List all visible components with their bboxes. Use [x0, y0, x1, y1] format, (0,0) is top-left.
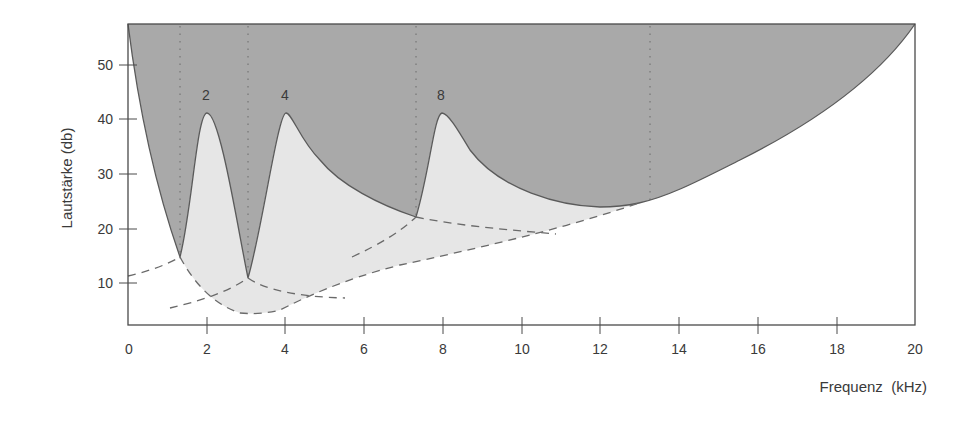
x-tick-label: 6 — [360, 341, 368, 357]
y-tick-label: 20 — [97, 221, 113, 237]
x-tick-label: 20 — [907, 341, 923, 357]
x-tick-label: 12 — [592, 341, 608, 357]
masker-2k-lower-skirt — [128, 257, 180, 276]
x-tick-label: 16 — [750, 341, 766, 357]
x-tick-label: 2 — [203, 341, 211, 357]
peak-label-4khz: 4 — [281, 87, 289, 103]
masked-region — [128, 24, 915, 278]
x-tick-labels: 0 2 4 6 8 10 12 14 16 18 20 — [125, 341, 923, 357]
peak-label-8khz: 8 — [437, 87, 445, 103]
x-tick-label: 14 — [671, 341, 687, 357]
y-axis-title: Lautstärke (db) — [58, 128, 75, 229]
x-tick-label: 4 — [281, 341, 289, 357]
x-tick-label: 18 — [829, 341, 845, 357]
x-tick-label: 0 — [125, 341, 133, 357]
masking-chart: 10 20 30 40 50 0 2 4 6 8 10 12 14 16 18 … — [0, 0, 975, 421]
x-axis-title: Frequenz (kHz) — [819, 378, 927, 395]
x-tick-label: 8 — [439, 341, 447, 357]
y-tick-label: 30 — [97, 166, 113, 182]
y-tick-labels: 10 20 30 40 50 — [97, 57, 113, 291]
y-tick-label: 50 — [97, 57, 113, 73]
x-tick-label: 10 — [514, 341, 530, 357]
y-tick-label: 10 — [97, 275, 113, 291]
y-tick-label: 40 — [97, 111, 113, 127]
peak-label-2khz: 2 — [202, 87, 210, 103]
